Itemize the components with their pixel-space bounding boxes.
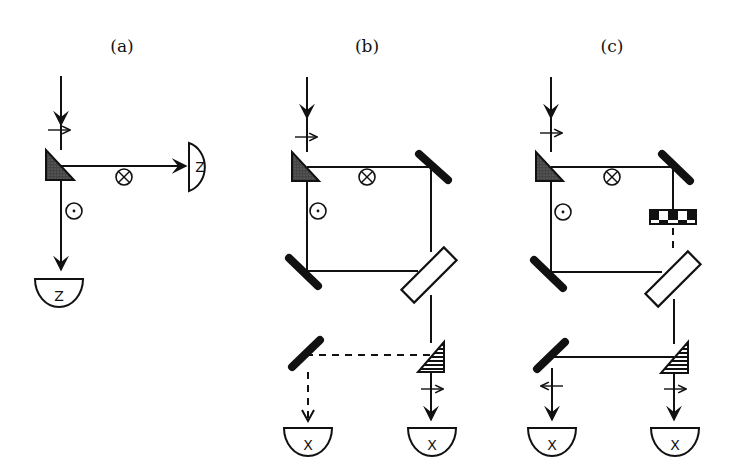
mirror-lower-left-c xyxy=(537,342,565,369)
svg-text:X: X xyxy=(303,437,313,453)
svg-text:X: X xyxy=(547,437,557,453)
detector-x-right-b: X xyxy=(408,428,456,456)
phase-shifter-element xyxy=(650,210,696,224)
polarization-out-of-page-icon xyxy=(66,203,82,219)
polarization-into-page-icon xyxy=(116,169,132,185)
mirror-lower-left-b xyxy=(292,340,320,367)
panel-c: (c) xyxy=(528,36,701,456)
polarizer-prism-b xyxy=(418,342,444,372)
svg-text:X: X xyxy=(670,437,680,453)
detector-z-right: Z xyxy=(189,143,205,191)
beam-splitter-b xyxy=(401,247,456,302)
svg-text:Z: Z xyxy=(54,288,64,304)
panel-label-b: (b) xyxy=(355,36,379,56)
mirror-bottom-left-c xyxy=(534,260,563,288)
detector-x-left-b: X xyxy=(284,428,332,456)
panel-label-c: (c) xyxy=(601,36,624,56)
polarization-into-page-icon xyxy=(359,169,375,185)
svg-text:X: X xyxy=(427,437,437,453)
detector-x-right-c: X xyxy=(651,428,699,456)
detector-x-left-c: X xyxy=(528,428,576,456)
polarization-out-of-page-icon xyxy=(310,203,326,219)
detector-z-bottom: Z xyxy=(35,279,83,307)
optics-diagram: (a) Z Z xyxy=(0,0,740,475)
beam-splitter-c xyxy=(645,251,700,306)
panel-label-a: (a) xyxy=(110,36,133,56)
panel-b: (b) xyxy=(284,36,457,456)
polarization-out-of-page-icon xyxy=(555,204,571,220)
svg-text:Z: Z xyxy=(195,159,205,175)
polarization-into-page-icon xyxy=(604,169,620,185)
panel-a: (a) Z Z xyxy=(35,36,205,307)
